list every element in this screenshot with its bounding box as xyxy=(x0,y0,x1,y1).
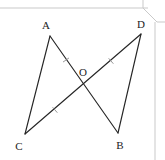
segment-DB xyxy=(118,34,141,133)
segment-CD xyxy=(25,34,141,134)
vertex-label-c: C xyxy=(15,141,23,152)
vertex-label-a: A xyxy=(42,20,50,31)
page-corner-fold-icon xyxy=(143,8,157,22)
segment-AC xyxy=(25,36,50,134)
vertex-label-o: O xyxy=(79,67,87,78)
vertex-label-b: B xyxy=(116,140,124,151)
vertex-label-d: D xyxy=(137,19,145,30)
segment-AB xyxy=(50,36,118,133)
document-page: A B C D O xyxy=(0,0,165,160)
